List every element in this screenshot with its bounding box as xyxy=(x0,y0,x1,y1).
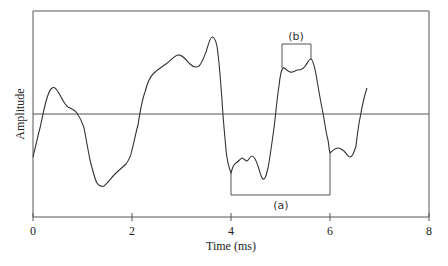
x-axis-title: Time (ms) xyxy=(206,239,256,253)
x-tick-label: 4 xyxy=(228,224,234,238)
y-axis-title: Amplitude xyxy=(13,88,27,139)
x-tick-label: 0 xyxy=(30,224,36,238)
waveform-line xyxy=(33,37,367,186)
x-tick-label: 8 xyxy=(426,224,432,238)
annotation-a: (a) xyxy=(273,199,288,212)
x-tick-label: 6 xyxy=(327,224,333,238)
x-tick-label: 2 xyxy=(129,224,135,238)
x-tick-labels: 0 2 4 6 8 xyxy=(30,224,432,238)
annotation-b: (b) xyxy=(288,30,304,43)
chart: 0 2 4 6 8 Time (ms) Amplitude (a) (b) xyxy=(0,0,448,266)
bracket-a xyxy=(231,153,330,195)
